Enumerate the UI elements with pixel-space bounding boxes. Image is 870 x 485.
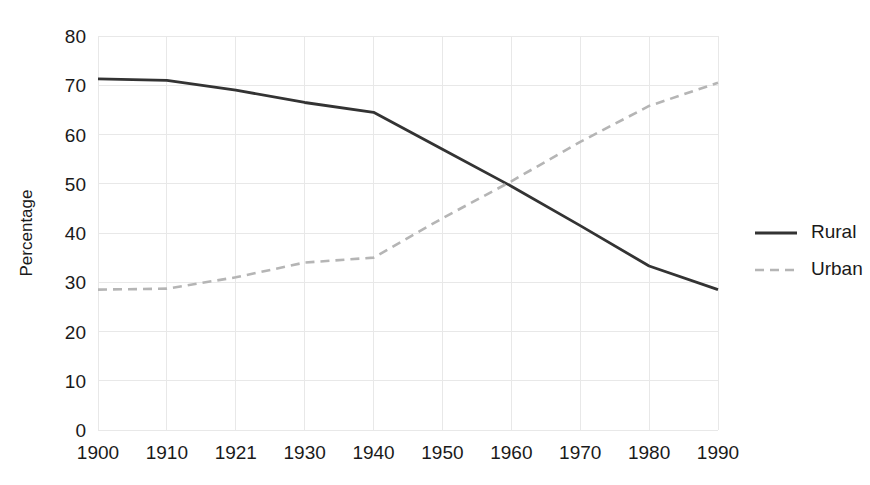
line-chart: 01020304050607080 1900191019211930194019… bbox=[0, 0, 870, 485]
y-axis-tick-labels: 01020304050607080 bbox=[65, 26, 86, 441]
y-axis-tick-label: 80 bbox=[65, 26, 86, 47]
x-axis-tick-label: 1940 bbox=[352, 442, 394, 463]
y-axis-tick-label: 20 bbox=[65, 322, 86, 343]
y-axis-tick-label: 0 bbox=[75, 420, 86, 441]
y-axis-tick-label: 40 bbox=[65, 223, 86, 244]
x-axis-tick-label: 1950 bbox=[421, 442, 463, 463]
legend-label-urban: Urban bbox=[811, 258, 863, 279]
x-axis-tick-label: 1930 bbox=[284, 442, 326, 463]
y-axis-tick-label: 30 bbox=[65, 272, 86, 293]
x-axis-tick-label: 1910 bbox=[146, 442, 188, 463]
y-axis-title: Percentage bbox=[17, 190, 36, 277]
x-axis-tick-label: 1921 bbox=[215, 442, 257, 463]
x-axis-tick-label: 1970 bbox=[559, 442, 601, 463]
y-axis-tick-label: 70 bbox=[65, 75, 86, 96]
y-axis-tick-label: 60 bbox=[65, 125, 86, 146]
chart-background bbox=[0, 0, 870, 485]
x-axis-tick-label: 1980 bbox=[628, 442, 670, 463]
x-axis-tick-label: 1900 bbox=[77, 442, 119, 463]
x-axis-tick-label: 1990 bbox=[697, 442, 739, 463]
x-axis-tick-label: 1960 bbox=[490, 442, 532, 463]
y-axis-tick-label: 10 bbox=[65, 371, 86, 392]
legend-label-rural: Rural bbox=[811, 221, 856, 242]
chart-figure: 01020304050607080 1900191019211930194019… bbox=[0, 0, 870, 485]
y-axis-tick-label: 50 bbox=[65, 174, 86, 195]
